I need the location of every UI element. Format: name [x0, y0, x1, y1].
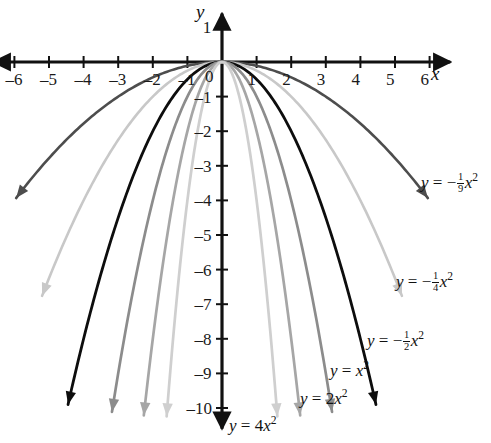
- origin-label: 0: [205, 68, 214, 85]
- axis-label-x: x: [431, 64, 439, 83]
- x-tick-label: –6: [5, 71, 22, 88]
- y-tick-label: –4: [195, 192, 212, 209]
- x-tick-label: 4: [351, 71, 360, 88]
- y-tick-label: –3: [195, 158, 212, 175]
- curve-arrowhead: [109, 398, 119, 412]
- y-tick-label: –9: [195, 365, 212, 382]
- curve-equation-label: y = −12x2: [367, 330, 424, 353]
- curve-equation-label: y = x2: [330, 360, 369, 379]
- x-tick-label: –3: [109, 71, 126, 88]
- x-tick-label: 3: [317, 71, 326, 88]
- curve-equation-label: y = −19x2: [421, 172, 478, 195]
- x-tick-label: –2: [144, 71, 161, 88]
- x-tick-label: 5: [386, 71, 395, 88]
- curve-equation-label: y = 4x2: [229, 415, 276, 434]
- x-tick-label: 2: [282, 71, 291, 88]
- y-tick-label: –7: [195, 296, 212, 313]
- x-tick-label: 1: [248, 71, 257, 88]
- y-tick-label: –5: [195, 227, 212, 244]
- x-tick-label: –5: [40, 71, 57, 88]
- axes-group: [0, 14, 450, 429]
- curve-equation-label: y = −14x2: [396, 271, 453, 294]
- y-tick-label: –10: [186, 400, 212, 417]
- axis-label-y: y: [196, 2, 204, 21]
- y-tick-label: –1: [195, 89, 212, 106]
- y-tick-label: –8: [195, 331, 212, 348]
- plot-canvas: [0, 0, 491, 443]
- y-tick-label: –2: [195, 123, 212, 140]
- x-tick-label: 6: [421, 71, 430, 88]
- parabola-family-figure: –6–5–4–3–2–11234561–1–2–3–4–5–6–7–8–9–10…: [0, 0, 491, 443]
- curve-equation-label: y = 2x2: [300, 388, 347, 407]
- x-tick-label: –4: [75, 71, 92, 88]
- y-tick-label: –6: [195, 262, 212, 279]
- parabola-curve: [222, 62, 277, 416]
- curve-arrowhead: [42, 282, 52, 296]
- x-tick-label: –1: [178, 71, 195, 88]
- y-tick-label: 1: [203, 19, 212, 36]
